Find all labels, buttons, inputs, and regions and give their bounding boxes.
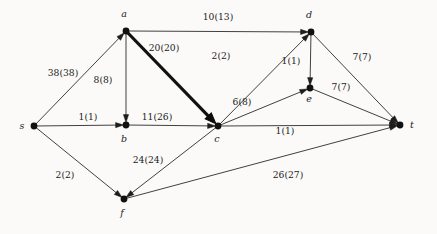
edge-labels-layer: 38(38)1(1)2(2)10(13)8(8)20(20)11(26)2(2)… bbox=[48, 11, 372, 180]
edge-label-c-d: 2(2) bbox=[212, 50, 231, 61]
node-f bbox=[121, 196, 128, 203]
node-s bbox=[31, 123, 38, 130]
arrowhead-f-t bbox=[389, 125, 397, 130]
edge-label-c-f: 24(24) bbox=[133, 154, 164, 165]
edge-label-a-b: 8(8) bbox=[94, 74, 113, 85]
edge-b-c bbox=[128, 125, 213, 126]
node-label-e: e bbox=[306, 93, 312, 104]
edge-label-d-e: 1(1) bbox=[282, 55, 301, 66]
edge-label-a-d: 10(13) bbox=[203, 11, 234, 22]
edge-label-f-t: 26(27) bbox=[273, 169, 304, 180]
node-t bbox=[397, 122, 404, 129]
node-e bbox=[307, 85, 314, 92]
node-label-a: a bbox=[121, 8, 127, 19]
edge-s-b bbox=[36, 125, 121, 126]
edge-c-d bbox=[220, 36, 308, 125]
node-b bbox=[123, 122, 130, 129]
edge-f-t bbox=[126, 126, 395, 198]
edge-label-b-c: 11(26) bbox=[142, 111, 173, 122]
arrowhead-s-b bbox=[116, 123, 124, 128]
edge-label-s-b: 1(1) bbox=[79, 111, 98, 122]
edge-d-t bbox=[313, 34, 397, 122]
arrowhead-a-d bbox=[301, 29, 309, 34]
node-d bbox=[308, 29, 315, 36]
arrowhead-s-f bbox=[114, 190, 122, 197]
arrowhead-a-b bbox=[123, 115, 128, 123]
arrowhead-d-e bbox=[308, 78, 313, 86]
flow-network-graph: 38(38)1(1)2(2)10(13)8(8)20(20)11(26)2(2)… bbox=[0, 0, 437, 234]
figure-canvas: 38(38)1(1)2(2)10(13)8(8)20(20)11(26)2(2)… bbox=[0, 0, 437, 234]
edge-e-t bbox=[312, 89, 395, 123]
node-label-b: b bbox=[121, 133, 127, 144]
edge-label-c-e: 6(8) bbox=[233, 96, 252, 107]
edge-label-e-t: 7(7) bbox=[332, 81, 351, 92]
arrowhead-b-c bbox=[208, 123, 216, 128]
edge-label-s-f: 2(2) bbox=[56, 169, 75, 180]
edge-label-s-a: 38(38) bbox=[48, 67, 79, 78]
edge-c-t bbox=[220, 125, 395, 126]
node-label-t: t bbox=[410, 119, 414, 130]
edge-s-f bbox=[36, 127, 120, 195]
node-label-c: c bbox=[214, 133, 220, 144]
node-label-s: s bbox=[20, 120, 25, 131]
node-c bbox=[215, 123, 222, 130]
edge-label-d-t: 7(7) bbox=[353, 51, 372, 62]
node-label-f: f bbox=[119, 207, 125, 218]
node-label-d: d bbox=[306, 9, 312, 20]
node-a bbox=[123, 28, 130, 35]
edge-d-e bbox=[310, 34, 311, 83]
edge-a-d bbox=[128, 31, 306, 32]
edge-label-a-c: 20(20) bbox=[149, 42, 180, 53]
edge-label-c-t: 1(1) bbox=[276, 125, 295, 136]
